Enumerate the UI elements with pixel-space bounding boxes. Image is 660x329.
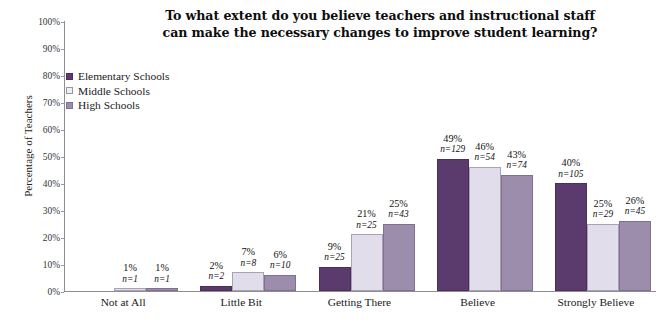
y-axis-tick-mark: [61, 49, 64, 50]
bar-count-label: n=8: [240, 258, 256, 270]
y-axis-tick-mark: [61, 265, 64, 266]
bar-count-label: n=1: [122, 274, 138, 286]
bar-count-label: n=1: [154, 274, 170, 286]
bars-layer: 1%n=11%n=12%n=27%n=86%n=109%n=2521%n=252…: [65, 21, 656, 291]
bar-slot: 40%n=105: [555, 21, 587, 291]
bar-slot: 43%n=74: [501, 21, 533, 291]
bar-value-label: 49%n=129: [440, 133, 465, 156]
bar-count-label: n=25: [324, 252, 344, 264]
bar-slot: 7%n=8: [232, 21, 264, 291]
y-axis-tick-mark: [61, 157, 64, 158]
bar-slot: 1%n=1: [114, 21, 146, 291]
bar-value-label: 25%n=43: [388, 198, 408, 221]
bar-percent-label: 40%: [558, 157, 583, 169]
bar-value-label: 46%n=54: [474, 141, 494, 164]
bar-count-label: n=43: [388, 209, 408, 221]
bar[interactable]: [351, 234, 383, 291]
bar-value-label: 25%n=29: [593, 198, 613, 221]
bar[interactable]: [587, 224, 619, 292]
bar-slot: 21%n=25: [351, 21, 383, 291]
legend-swatch-icon: [66, 102, 73, 109]
bar-slot: 1%n=1: [146, 21, 178, 291]
y-axis-tick-label: 40%: [20, 180, 60, 189]
bar-percent-label: 49%: [440, 133, 465, 145]
bar[interactable]: [555, 183, 587, 291]
x-axis-category-label: Not at All: [64, 296, 182, 308]
y-axis-tick-label: 50%: [20, 153, 60, 162]
bar-percent-label: 9%: [324, 241, 344, 253]
legend-item[interactable]: High Schools: [66, 98, 169, 113]
bar[interactable]: [319, 267, 351, 291]
y-axis-tick-mark: [61, 184, 64, 185]
bar[interactable]: [264, 275, 296, 291]
bar-count-label: n=45: [625, 206, 645, 218]
x-axis-labels: Not at AllLittle BitGetting ThereBelieve…: [64, 296, 656, 320]
legend-item[interactable]: Elementary Schools: [66, 69, 169, 84]
x-axis-category-label: Getting There: [300, 296, 418, 308]
bar[interactable]: [501, 175, 533, 291]
bar-count-label: n=74: [506, 160, 526, 172]
legend-label: Elementary Schools: [78, 70, 169, 82]
y-axis-tick-mark: [61, 292, 64, 293]
bar-percent-label: 46%: [474, 141, 494, 153]
legend-swatch-icon: [66, 87, 73, 94]
y-axis-tick-label: 20%: [20, 234, 60, 243]
bar-percent-label: 25%: [388, 198, 408, 210]
bar-value-label: 43%n=74: [506, 149, 526, 172]
bar-slot: 6%n=10: [264, 21, 296, 291]
y-axis-tick-label: 0%: [20, 288, 60, 297]
bar-slot: 26%n=45: [619, 21, 651, 291]
bar-slot: 46%n=54: [469, 21, 501, 291]
bar-slot: 25%n=29: [587, 21, 619, 291]
bar-count-label: n=25: [356, 220, 376, 232]
legend-label: Middle Schools: [78, 85, 150, 97]
y-axis-tick-mark: [61, 76, 64, 77]
bar-percent-label: 43%: [506, 149, 526, 161]
legend-label: High Schools: [78, 99, 140, 111]
bar-percent-label: 25%: [593, 198, 613, 210]
bar-percent-label: 2%: [208, 260, 224, 272]
legend-item[interactable]: Middle Schools: [66, 84, 169, 99]
bar-chart: To what extent do you believe teachers a…: [0, 0, 660, 329]
y-axis-tick-label: 60%: [20, 126, 60, 135]
legend-swatch-icon: [66, 73, 73, 80]
y-axis-tick-label: 70%: [20, 99, 60, 108]
bar[interactable]: [146, 288, 178, 291]
bar-value-label: 6%n=10: [270, 249, 290, 272]
y-axis-tick-label: 90%: [20, 45, 60, 54]
y-axis-tick-mark: [61, 211, 64, 212]
bar-slot: 25%n=43: [383, 21, 415, 291]
chart-legend: Elementary SchoolsMiddle SchoolsHigh Sch…: [66, 69, 169, 113]
bar-percent-label: 21%: [356, 208, 376, 220]
y-axis-tick-label: 100%: [20, 18, 60, 27]
y-axis-tick-mark: [61, 22, 64, 23]
bar[interactable]: [114, 288, 146, 291]
bar-count-label: n=129: [440, 144, 465, 156]
bar[interactable]: [383, 224, 415, 292]
y-axis-tick-label: 80%: [20, 72, 60, 81]
bar[interactable]: [469, 167, 501, 291]
bar[interactable]: [619, 221, 651, 291]
bar-value-label: 26%n=45: [625, 195, 645, 218]
x-axis-line: [64, 291, 656, 292]
y-axis-tick-label: 10%: [20, 261, 60, 270]
bar-count-label: n=105: [558, 169, 583, 181]
bar[interactable]: [200, 286, 232, 291]
bar-percent-label: 1%: [122, 262, 138, 274]
bar-value-label: 40%n=105: [558, 157, 583, 180]
y-axis-tick-mark: [61, 238, 64, 239]
bar-percent-label: 6%: [270, 249, 290, 261]
bar-count-label: n=54: [474, 152, 494, 164]
bar[interactable]: [232, 272, 264, 291]
bar-value-label: 21%n=25: [356, 208, 376, 231]
bar-count-label: n=10: [270, 260, 290, 272]
bar-slot: 49%n=129: [437, 21, 469, 291]
bar-value-label: 7%n=8: [240, 246, 256, 269]
x-axis-category-label: Believe: [419, 296, 537, 308]
bar-slot: 2%n=2: [200, 21, 232, 291]
bar[interactable]: [437, 159, 469, 291]
y-axis-tick-mark: [61, 130, 64, 131]
bar-value-label: 1%n=1: [122, 262, 138, 285]
bar-value-label: 9%n=25: [324, 241, 344, 264]
x-axis-category-label: Strongly Believe: [537, 296, 655, 308]
